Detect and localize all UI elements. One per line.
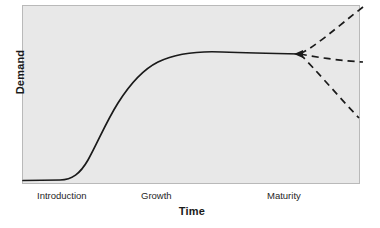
x-axis-label-introduction: Introduction [37,190,87,201]
y-axis-title: Demand [14,24,26,120]
x-axis-title-wrapper: Time [0,205,380,217]
x-axis-label-maturity: Maturity [267,190,301,201]
product-life-cycle-figure: Demand Introduction Growth Maturity Time [0,0,380,228]
plot-area [22,5,360,184]
x-axis-title: Time [179,205,205,217]
x-axis-label-growth: Growth [141,190,172,201]
